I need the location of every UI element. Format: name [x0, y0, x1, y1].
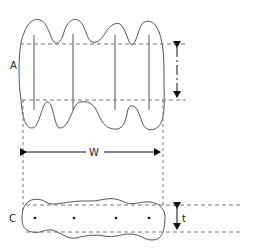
- label-c: C: [9, 213, 16, 224]
- shape-a-outline: [19, 20, 164, 130]
- shape-a: [19, 20, 164, 130]
- label-t: t: [182, 213, 186, 224]
- dot-1: [34, 217, 37, 220]
- dot-4: [148, 217, 151, 220]
- diagram-canvas: A W t C: [0, 0, 254, 248]
- label-a: A: [10, 60, 17, 71]
- dot-3: [115, 217, 118, 220]
- dot-2: [73, 217, 76, 220]
- label-w: W: [89, 147, 99, 158]
